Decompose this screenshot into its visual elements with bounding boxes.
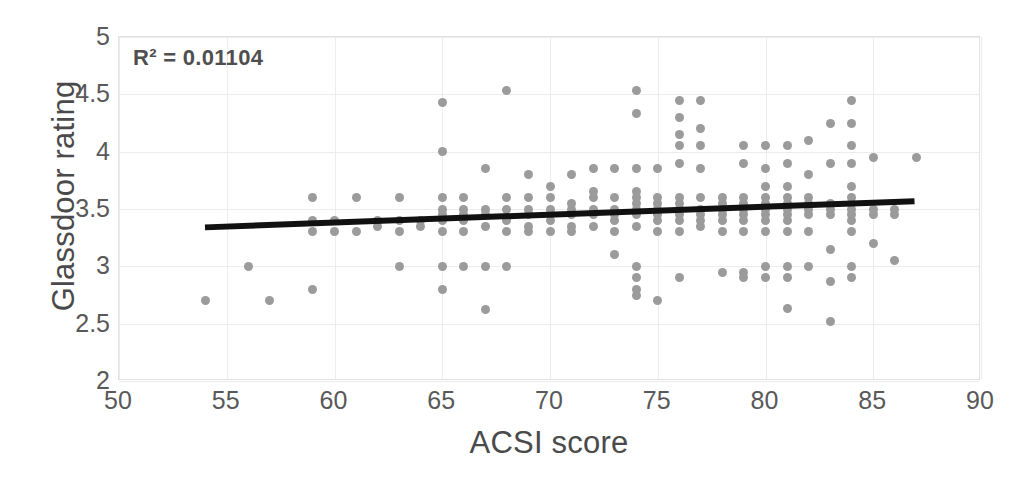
y-tick-label: 4 <box>56 139 110 164</box>
x-tick-label: 80 <box>730 388 800 413</box>
x-tick-label: 55 <box>191 388 261 413</box>
y-tick-label: 4.5 <box>56 81 110 106</box>
y-tick-label: 3.5 <box>56 196 110 221</box>
y-tick-label: 2.5 <box>56 311 110 336</box>
x-tick-label: 50 <box>83 388 153 413</box>
plot-area: R² = 0.01104 <box>118 36 980 380</box>
chart-root: Glassdoor rating ACSI score 22.533.544.5… <box>0 0 1028 480</box>
gridline-vertical <box>981 37 982 379</box>
x-axis-title: ACSI score <box>118 425 980 461</box>
x-tick-label: 85 <box>837 388 907 413</box>
trendline <box>119 37 979 379</box>
x-tick-label: 90 <box>945 388 1015 413</box>
y-tick-label: 3 <box>56 253 110 278</box>
x-tick-label: 70 <box>514 388 584 413</box>
y-tick-label: 5 <box>56 24 110 49</box>
trendline-segment <box>205 201 915 227</box>
x-tick-label: 60 <box>299 388 369 413</box>
gridline-horizontal <box>119 381 979 382</box>
x-tick-label: 65 <box>406 388 476 413</box>
x-tick-label: 75 <box>622 388 692 413</box>
